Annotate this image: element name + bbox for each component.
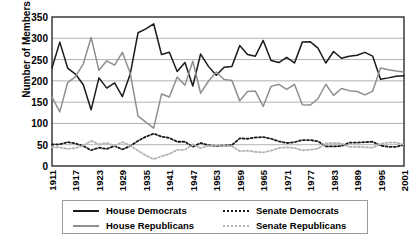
x-tick-label: 2001 xyxy=(399,170,410,191)
legend-column-house: House DemocratsHouse Republicans xyxy=(73,203,194,233)
x-tick-label: 1947 xyxy=(188,170,199,191)
x-tick-label: 1989 xyxy=(352,170,363,191)
series-line-senate-republicans xyxy=(52,141,404,159)
legend-item[interactable]: Senate Democrats xyxy=(223,203,346,218)
legend-label: House Democrats xyxy=(106,205,187,216)
y-tick-label: 150 xyxy=(31,97,48,108)
legend-item[interactable]: House Republicans xyxy=(73,218,194,233)
y-tick-label: 200 xyxy=(31,75,48,86)
y-tick-label: 300 xyxy=(31,33,48,44)
legend-label: House Republicans xyxy=(106,220,194,231)
x-tick-label: 1929 xyxy=(117,170,128,191)
x-tick-label: 1911 xyxy=(47,170,58,191)
legend-label: Senate Republicans xyxy=(256,220,346,231)
x-tick-label: 1953 xyxy=(211,170,222,191)
y-tick-label: 100 xyxy=(31,118,48,129)
legend-item[interactable]: Senate Republicans xyxy=(223,218,346,233)
legend-swatch-icon xyxy=(73,206,99,216)
legend-swatch-icon xyxy=(73,221,99,231)
x-tick-label: 1971 xyxy=(282,170,293,191)
y-tick-label: 250 xyxy=(31,54,48,65)
series-line-house-republicans xyxy=(52,37,404,128)
x-tick-label: 1965 xyxy=(258,170,269,191)
chart-container: Number of Members 050100150200250300350 … xyxy=(0,0,418,240)
x-tick-label: 1941 xyxy=(164,170,175,191)
legend-swatch-icon xyxy=(223,221,249,231)
series-line-house-democrats xyxy=(52,24,404,110)
y-axis-tick-labels: 050100150200250300350 xyxy=(0,0,48,240)
y-tick-label: 50 xyxy=(37,139,48,150)
legend-column-senate: Senate DemocratsSenate Republicans xyxy=(223,203,346,233)
legend-item[interactable]: House Democrats xyxy=(73,203,194,218)
y-tick-label: 350 xyxy=(31,12,48,23)
series-line-senate-democrats xyxy=(52,134,404,151)
legend-swatch-icon xyxy=(223,206,249,216)
x-tick-label: 1923 xyxy=(94,170,105,191)
x-tick-label: 1959 xyxy=(235,170,246,191)
legend-label: Senate Democrats xyxy=(256,205,339,216)
x-tick-label: 1983 xyxy=(329,170,340,191)
chart-legend: House DemocratsHouse Republicans Senate … xyxy=(62,200,368,234)
x-tick-label: 1977 xyxy=(305,170,316,191)
x-tick-label: 1935 xyxy=(141,170,152,191)
x-tick-label: 1995 xyxy=(376,170,387,191)
x-tick-label: 1917 xyxy=(70,170,81,191)
